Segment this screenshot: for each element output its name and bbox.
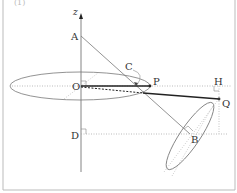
z-axis-arrow-icon	[79, 13, 83, 19]
label-q: Q	[222, 98, 230, 109]
label-h: H	[214, 76, 223, 87]
label-p: P	[153, 76, 160, 87]
caption: (1)	[14, 0, 25, 7]
right-angle-mark-o	[81, 81, 86, 86]
segment-o-dashed	[81, 87, 143, 93]
point-p	[149, 85, 152, 88]
label-o: O	[72, 81, 80, 92]
label-c: C	[125, 61, 133, 72]
label-d: D	[71, 130, 79, 141]
geometry-diagram: (1) z A O C P H Q D B	[0, 0, 237, 193]
segment-pq	[143, 93, 219, 99]
z-axis-label: z	[72, 7, 78, 17]
frame-border	[3, 0, 235, 190]
right-angle-mark-d	[81, 129, 86, 134]
label-a: A	[70, 31, 79, 42]
label-b: B	[191, 134, 198, 145]
